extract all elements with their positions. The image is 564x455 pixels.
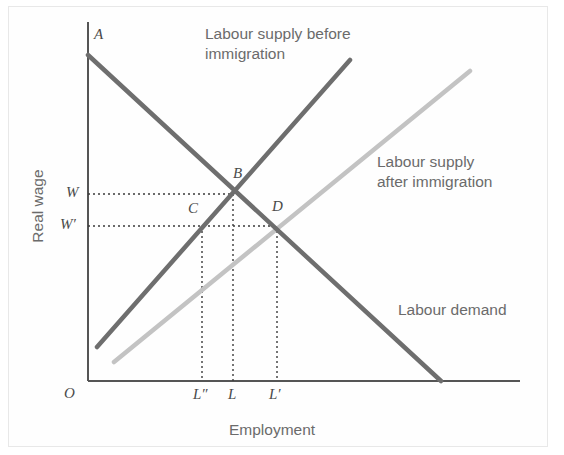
labour-supply-before-label: Labour supply before immigration: [205, 24, 395, 65]
labour-supply-after-label: Labour supply after immigration: [377, 152, 542, 193]
labour-supply-before-curve: [97, 60, 350, 347]
point-a-label: A: [94, 26, 103, 43]
diagram-canvas: [0, 0, 564, 455]
x-tick-l-double-prime: L″: [193, 386, 208, 403]
x-tick-l-prime: L′: [269, 386, 281, 403]
origin-label: O: [64, 385, 75, 402]
x-tick-l: L: [228, 386, 236, 403]
labour-market-immigration-diagram: Labour supply before immigration Labour …: [0, 0, 564, 455]
point-d-label: D: [272, 198, 283, 215]
labour-demand-curve: [88, 55, 441, 381]
y-tick-w: W: [66, 184, 79, 201]
point-b-label: B: [233, 165, 242, 182]
y-tick-w-prime: W′: [60, 216, 76, 233]
y-axis-title: Real wage: [29, 146, 47, 266]
point-c-label: C: [188, 200, 198, 217]
labour-demand-label: Labour demand: [398, 300, 548, 320]
x-axis-title: Employment: [229, 420, 315, 440]
